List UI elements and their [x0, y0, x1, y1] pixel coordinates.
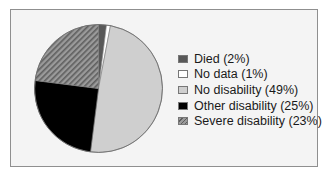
pie-slice-severe-disability [35, 25, 98, 89]
legend-item-died: Died (2%) [178, 51, 322, 67]
legend-label: No disability (49%) [194, 83, 298, 97]
legend-swatch-no-data [178, 70, 188, 78]
legend-item-severe-disability: Severe disability (23%) [178, 113, 322, 129]
legend-label: Other disability (25%) [194, 99, 314, 113]
legend-item-other-disability: Other disability (25%) [178, 98, 322, 114]
pie-slices [35, 25, 163, 153]
legend-swatch-severe-disability [178, 117, 188, 125]
legend-swatch-other-disability [178, 102, 188, 110]
legend-item-no-disability: No disability (49%) [178, 82, 322, 98]
legend-label: No data (1%) [194, 67, 268, 81]
legend-label: Died (2%) [194, 52, 250, 66]
legend-swatch-died [178, 55, 188, 63]
legend: Died (2%) No data (1%) No disability (49… [178, 51, 322, 129]
legend-item-no-data: No data (1%) [178, 67, 322, 83]
legend-swatch-no-disability [178, 86, 188, 94]
pie-slice-other-disability [35, 80, 99, 152]
legend-label: Severe disability (23%) [194, 114, 322, 128]
